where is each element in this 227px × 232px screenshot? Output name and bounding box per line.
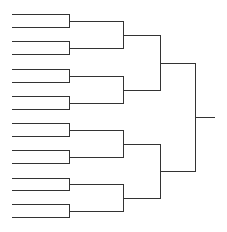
tournament-bracket — [0, 0, 227, 232]
round-2-slot-line — [69, 211, 124, 212]
round-4-slot-line — [160, 171, 196, 172]
entry-slot-line — [12, 54, 70, 55]
round-2-slot-line — [69, 130, 124, 131]
round-2-slot-line — [69, 184, 124, 185]
entry-slot-line — [12, 41, 70, 42]
entry-slot-line — [12, 14, 70, 15]
entry-slot-line — [12, 136, 70, 137]
entry-slot-line — [12, 27, 70, 28]
round-2-slot-line — [69, 157, 124, 158]
entry-slot-line — [12, 96, 70, 97]
entry-slot-line — [12, 82, 70, 83]
entry-slot-line — [12, 109, 70, 110]
entry-slot-line — [12, 217, 70, 218]
entry-slot-line — [12, 150, 70, 151]
entry-slot-line — [12, 123, 70, 124]
round-2-slot-line — [69, 76, 124, 77]
round-2-slot-line — [69, 21, 124, 22]
round-2-slot-line — [69, 48, 124, 49]
round-4-slot-line — [160, 63, 196, 64]
round-3-slot-line — [123, 90, 161, 91]
champion-line — [195, 117, 215, 118]
round-3-slot-line — [123, 35, 161, 36]
round-3-slot-line — [123, 144, 161, 145]
entry-slot-line — [12, 178, 70, 179]
round-2-slot-line — [69, 103, 124, 104]
entry-slot-line — [12, 69, 70, 70]
round-3-slot-line — [123, 198, 161, 199]
entry-slot-line — [12, 204, 70, 205]
entry-slot-line — [12, 190, 70, 191]
entry-slot-line — [12, 163, 70, 164]
